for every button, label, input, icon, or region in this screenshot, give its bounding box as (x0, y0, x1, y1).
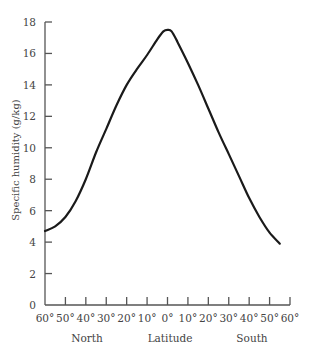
x-tick-label: 20° (117, 312, 136, 324)
y-tick-label: 14 (16, 79, 36, 91)
y-tick-label: 2 (16, 268, 36, 280)
x-tick-label: 0° (162, 312, 174, 324)
x-tick-label: 30° (219, 312, 238, 324)
y-tick-label: 6 (16, 205, 36, 217)
x-region-label-north: North (71, 332, 103, 344)
x-tick-label: 60° (36, 312, 55, 324)
chart: Specific humidity (g/kg) 024681012141618… (0, 0, 309, 356)
x-axis-label: Latitude (148, 332, 193, 344)
y-tick-label: 4 (16, 236, 36, 248)
y-tick-label: 8 (16, 173, 36, 185)
x-tick-label: 60° (281, 312, 300, 324)
y-tick-label: 16 (16, 47, 36, 59)
x-tick-label: 40° (240, 312, 259, 324)
x-tick-label: 50° (260, 312, 279, 324)
y-tick-label: 18 (16, 16, 36, 28)
x-tick-label: 20° (199, 312, 218, 324)
chart-plot-area (0, 0, 309, 356)
x-tick-label: 10° (179, 312, 198, 324)
y-tick-label: 12 (16, 110, 36, 122)
x-tick-label: 10° (138, 312, 157, 324)
x-tick-label: 40° (77, 312, 96, 324)
x-tick-label: 30° (97, 312, 116, 324)
x-tick-label: 50° (56, 312, 75, 324)
humidity-curve (45, 30, 280, 244)
y-tick-label: 10 (16, 142, 36, 154)
x-region-label-south: South (236, 332, 267, 344)
axes (45, 22, 290, 305)
y-tick-label: 0 (16, 299, 36, 311)
